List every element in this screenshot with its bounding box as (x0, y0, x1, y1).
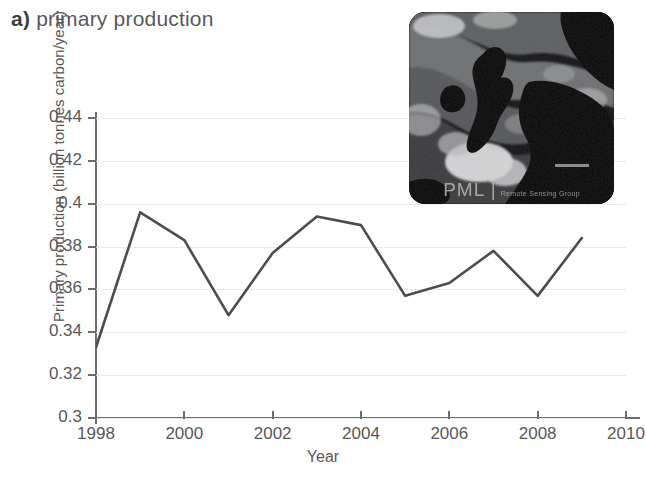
y-tick-mark (88, 246, 96, 248)
y-tick-label: 0.42 (22, 150, 82, 170)
x-tick-label: 2004 (321, 424, 401, 444)
y-tick-mark (88, 160, 96, 162)
y-tick-label: 0.38 (22, 236, 82, 256)
x-tick-label: 2006 (409, 424, 489, 444)
x-tick-mark (448, 411, 450, 419)
x-tick-mark (625, 411, 627, 419)
x-tick-mark (95, 411, 97, 419)
figure-panel-a: a) primary production Primary production… (0, 0, 646, 479)
y-tick-mark (88, 374, 96, 376)
y-tick-label: 0.32 (22, 364, 82, 384)
y-tick-label: 0.4 (22, 193, 82, 213)
y-tick-mark (88, 203, 96, 205)
x-tick-mark (360, 411, 362, 419)
y-tick-mark (88, 331, 96, 333)
y-tick-mark (88, 288, 96, 290)
x-tick-label: 2010 (586, 424, 646, 444)
y-tick-mark (88, 117, 96, 119)
x-tick-label: 2002 (233, 424, 313, 444)
y-tick-label: 0.44 (22, 107, 82, 127)
y-tick-label: 0.36 (22, 278, 82, 298)
satellite-map-image (409, 12, 614, 204)
x-tick-mark (272, 411, 274, 419)
x-tick-label: 2000 (144, 424, 224, 444)
x-tick-label: 1998 (56, 424, 136, 444)
x-tick-mark (183, 411, 185, 419)
panel-letter: a) (11, 7, 30, 30)
page-title: a) primary production (11, 7, 214, 31)
satellite-map-inset: PML |Remote Sensing Group (409, 12, 614, 204)
y-tick-label: 0.34 (22, 321, 82, 341)
x-tick-label: 2008 (498, 424, 578, 444)
x-axis-label: Year (0, 448, 646, 466)
x-tick-mark (537, 411, 539, 419)
